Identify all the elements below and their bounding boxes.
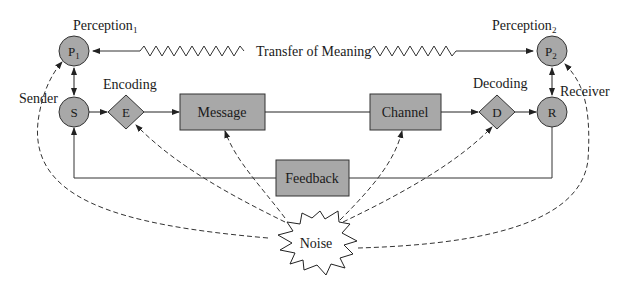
svg-text:R: R <box>548 105 557 120</box>
perception1-label: Perception1 <box>73 18 137 35</box>
perception2-node: P2 <box>537 36 567 66</box>
sender-label: Sender <box>19 91 58 106</box>
receiver-node: R <box>537 97 567 127</box>
receiver-label: Receiver <box>560 84 610 99</box>
decoding-node: D <box>479 95 515 129</box>
svg-text:Message: Message <box>198 105 247 120</box>
feedback-box: Feedback <box>276 160 349 196</box>
decoding-label: Decoding <box>473 76 527 91</box>
transfer-of-meaning-label: Transfer of Meaning <box>256 44 371 59</box>
channel-box: Channel <box>370 94 441 130</box>
perception1-node: P1 <box>59 36 89 66</box>
communication-diagram: Transfer of Meaning Perception1 Percepti… <box>0 0 622 293</box>
svg-text:S: S <box>70 105 77 120</box>
svg-text:Channel: Channel <box>382 105 429 120</box>
message-box: Message <box>180 94 265 130</box>
svg-text:D: D <box>492 105 501 120</box>
svg-text:Feedback: Feedback <box>285 171 339 186</box>
encoding-node: E <box>108 95 144 129</box>
svg-text:E: E <box>122 105 130 120</box>
perception2-label: Perception2 <box>492 18 556 35</box>
sender-node: S <box>59 97 89 127</box>
noise-label: Noise <box>300 236 333 251</box>
encoding-label: Encoding <box>103 77 157 92</box>
